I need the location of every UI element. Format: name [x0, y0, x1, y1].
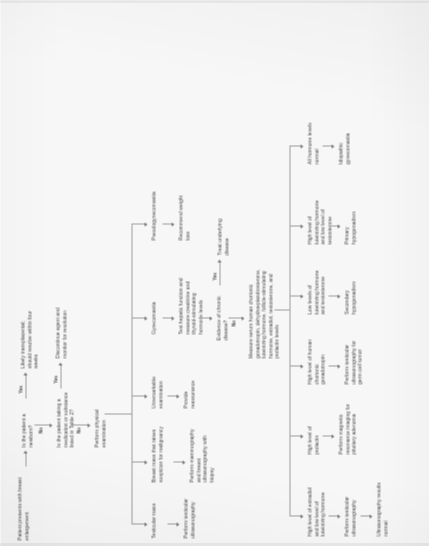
connector [328, 295, 338, 296]
node-mri-pituitary-adenoma: Perform magnetic resonance imaging for p… [337, 400, 357, 454]
node-pseudogynecomastia: Pseudogynecomastia [150, 190, 157, 240]
arrow-icon [23, 450, 27, 453]
node-mammography-biopsy: Perform mammography and breast ultrasono… [188, 426, 214, 482]
node-provide-reassurance: Provide reassurance [182, 362, 195, 408]
connector [289, 365, 301, 366]
node-primary-hypogonadism: Primary hypogonadism [343, 200, 356, 244]
edge-label-chronic-yes: Yes [212, 272, 218, 280]
node-germ-cell-tumor-ultrasonography: Perform testicular ultrasonography for g… [343, 334, 363, 384]
connector [131, 223, 145, 224]
connector [328, 515, 338, 516]
node-ultrasonography-results-normal: Ultrasonography results normal [375, 482, 388, 536]
connector [60, 364, 61, 388]
arrow-icon [144, 316, 147, 320]
arrow-icon [337, 364, 340, 368]
arrow-icon [337, 514, 340, 518]
node-question-chronic-disease: Evidence of chronic disease? [215, 288, 228, 340]
connector [289, 225, 301, 226]
edge-label-newborn-yes: Yes [18, 385, 24, 393]
arrow-icon [300, 514, 303, 518]
node-low-lh-testosterone: Low levels of luteinizing hormone and te… [306, 268, 326, 314]
connector [173, 461, 183, 462]
arrow-icon [331, 434, 334, 438]
connector [131, 523, 145, 524]
connector [131, 317, 145, 318]
connector [289, 515, 301, 516]
edge-label-chronic-no: No [231, 320, 237, 326]
connector-bus [289, 146, 290, 206]
arrow-icon [58, 362, 62, 365]
arrow-icon [331, 144, 334, 148]
node-idiopathic-gynecomastia: Idiopathic gynecomastia [337, 120, 350, 164]
edge-label-newborn-no: No [38, 427, 44, 433]
connector [328, 365, 338, 366]
arrow-icon [300, 434, 303, 438]
node-hepatic-thyroid-tests: Test hepatic function and measure creati… [177, 272, 203, 334]
arrow-icon [176, 394, 179, 398]
connector [131, 461, 145, 462]
node-high-hcg: High level of human chorionic gonadotrop… [306, 338, 326, 384]
connector [167, 395, 177, 396]
connector [162, 317, 172, 318]
arrow-icon [300, 294, 303, 298]
edge-label-medication-yes: Yes [53, 375, 59, 383]
flowchart-canvas: Patient presents with breast enlargement… [0, 0, 429, 546]
connector [131, 395, 145, 396]
node-question-medication: Is the patient taking a medication or su… [55, 391, 75, 447]
connector [322, 435, 332, 436]
arrow-icon [369, 514, 372, 518]
connector [25, 452, 26, 466]
arrow-icon [217, 259, 221, 262]
connector [162, 223, 172, 224]
arrow-icon [144, 222, 147, 226]
connector [360, 515, 370, 516]
connector-spine [104, 413, 132, 414]
connector [228, 317, 242, 318]
arrow-icon [176, 522, 179, 526]
node-high-prolactin: High level of prolactin [306, 406, 319, 454]
connector [34, 424, 50, 425]
connector [198, 317, 210, 318]
node-high-estradiol: High level of estradiol and low level of… [306, 478, 326, 536]
node-breast-mass: Breast mass that raises suspicion for ma… [150, 426, 163, 482]
connector [289, 435, 301, 436]
arrow-icon [144, 522, 147, 526]
rotated-page-wrapper: Patient presents with breast enlargement… [0, 0, 429, 546]
arrow-icon [300, 364, 303, 368]
node-recommend-weight-loss: Recommend weight loss [177, 194, 190, 240]
connector-bus [131, 224, 132, 524]
node-treat-underlying-disease: Treat underlying disease [216, 203, 229, 255]
node-testicular-ultrasonography: Perform testicular ultrasonography [182, 490, 195, 538]
arrow-icon [337, 294, 340, 298]
connector [167, 523, 177, 524]
arrow-icon [87, 423, 90, 427]
arrow-icon [337, 224, 340, 228]
node-unremarkable-exam: Unremarkable examination [150, 364, 163, 408]
node-secondary-hypogonadism: Secondary hypogonadism [343, 270, 356, 314]
arrow-icon [241, 316, 244, 320]
node-newborn-outcome: Likely transplacental; should resolve wi… [19, 306, 39, 368]
arrow-icon [182, 460, 185, 464]
node-start: Patient presents with breast enlargement [16, 468, 29, 540]
node-estradiol-ultrasonography: Perform testicular ultrasonography [343, 488, 356, 536]
arrow-icon [209, 316, 212, 320]
connector [322, 145, 332, 146]
connector-spine [274, 309, 290, 310]
connector [72, 424, 88, 425]
arrow-icon [300, 144, 303, 148]
arrow-icon [144, 460, 147, 464]
connector [219, 261, 220, 285]
node-question-newborn: Is the patient a newborn? [20, 401, 33, 447]
connector [289, 295, 301, 296]
arrow-icon [144, 394, 147, 398]
node-testicular-mass: Testicular mass [150, 490, 157, 538]
node-physical-exam: Perform physical examination [93, 391, 106, 447]
arrow-icon [171, 222, 174, 226]
arrow-icon [49, 423, 52, 427]
connector [289, 145, 301, 146]
connector [328, 225, 338, 226]
node-high-lh-low-testosterone: High level of luteinizing hormone and lo… [306, 192, 332, 244]
node-all-hormones-normal: All hormone levels normal [306, 118, 319, 164]
arrow-icon [300, 224, 303, 228]
edge-label-medication-no: No [76, 427, 82, 433]
